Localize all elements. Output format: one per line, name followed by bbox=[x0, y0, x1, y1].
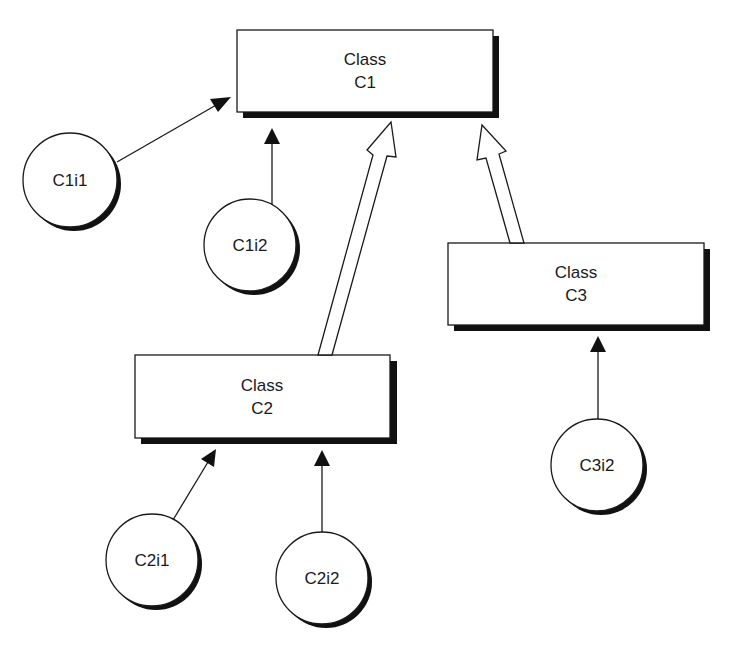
instance-c1i1: C1i1 bbox=[23, 97, 231, 231]
arrowhead-icon bbox=[264, 128, 280, 144]
instance-of-line bbox=[173, 462, 208, 520]
instance-label: C2i1 bbox=[135, 551, 170, 570]
class-keyword: Class bbox=[241, 376, 284, 395]
instance-label: C2i2 bbox=[305, 569, 340, 588]
class-box-c2: Class C2 bbox=[135, 355, 397, 444]
inheritance-arrow-c3-to-c1 bbox=[477, 125, 524, 243]
class-name: C1 bbox=[354, 73, 376, 92]
box-body bbox=[237, 30, 493, 112]
box-body bbox=[135, 355, 390, 438]
class-name: C2 bbox=[251, 399, 273, 418]
instance-c3i2: C3i2 bbox=[551, 336, 647, 515]
hollow-arrow-icon bbox=[477, 125, 524, 243]
class-name: C3 bbox=[565, 286, 587, 305]
arrowhead-icon bbox=[314, 450, 330, 466]
hollow-arrow-icon bbox=[318, 122, 396, 355]
instance-of-line bbox=[117, 104, 218, 162]
class-keyword: Class bbox=[555, 263, 598, 282]
inheritance-arrow-c2-to-c1 bbox=[318, 122, 396, 355]
instance-c2i1: C2i1 bbox=[106, 449, 216, 610]
instance-c2i2: C2i2 bbox=[276, 450, 372, 628]
class-keyword: Class bbox=[344, 50, 387, 69]
arrowhead-icon bbox=[201, 449, 216, 467]
instance-label: C3i2 bbox=[580, 456, 615, 475]
box-body bbox=[448, 243, 704, 325]
class-instance-diagram: Class C1 Class C3 Class C2 C1i1 C1i2 bbox=[0, 0, 738, 652]
class-box-c3: Class C3 bbox=[448, 243, 710, 331]
arrowhead-icon bbox=[210, 97, 231, 112]
instance-c1i2: C1i2 bbox=[204, 128, 300, 295]
instance-label: C1i2 bbox=[233, 236, 268, 255]
instance-label: C1i1 bbox=[53, 171, 88, 190]
class-box-c1: Class C1 bbox=[237, 30, 499, 118]
arrowhead-icon bbox=[590, 336, 606, 352]
